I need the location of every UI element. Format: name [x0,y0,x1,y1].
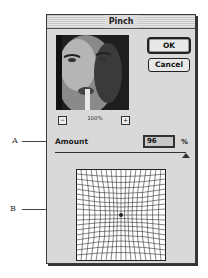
pinch-dialog: Pinch OK Cancel − 100% + Amount 96 % [46,14,196,264]
amount-slider-thumb[interactable] [182,153,190,158]
minus-icon: − [60,116,65,123]
amount-unit: % [181,138,188,146]
zoom-out-button[interactable]: − [58,116,67,125]
ok-button[interactable]: OK [147,37,191,54]
zoom-in-button[interactable]: + [121,116,130,125]
preview-image[interactable] [56,35,129,110]
zoom-level: 100% [77,115,113,121]
pinch-distortion-grid-icon [76,169,166,261]
pinch-grid-preview [76,169,166,261]
plus-icon: + [123,116,128,123]
callout-label-b: B [10,204,16,213]
amount-input[interactable]: 96 [143,135,175,148]
cancel-button[interactable]: Cancel [148,58,190,72]
amount-slider-track[interactable] [55,152,186,153]
amount-label: Amount [55,137,88,146]
dialog-title: Pinch [105,15,138,28]
title-bar[interactable]: Pinch [47,15,195,29]
callout-label-a: A [12,136,18,145]
face-preview-icon [56,35,129,110]
